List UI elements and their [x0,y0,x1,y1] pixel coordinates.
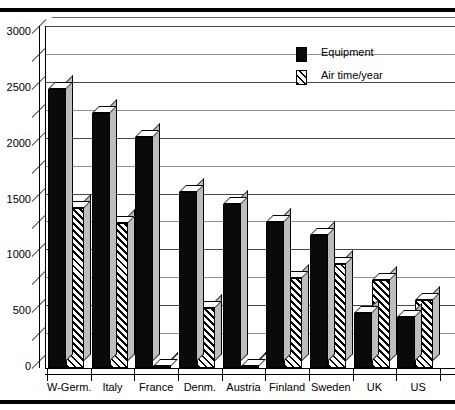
x-tick [265,368,266,381]
gridline-2750 [45,54,455,55]
chart-page: 050010001500200025003000 W-Germ.ItalyFra… [0,0,455,410]
x-tick [309,368,310,381]
bar-equipment [179,192,197,368]
bar-side-face [197,178,204,361]
bar-front-face [179,192,197,368]
bar-side-face [241,190,248,361]
bar-side-face [346,250,353,361]
bar-equipment [92,113,110,368]
bar-equipment [354,313,372,368]
air-time-swatch-icon [296,70,307,85]
bar-front-face [92,113,110,368]
legend-label-equipment: Equipment [321,46,374,58]
y-axis-tick-label: 500 [13,304,31,316]
x-tick [134,368,135,381]
y-axis-labels: 050010001500200025003000 [0,0,31,410]
bar-front-face [135,137,153,368]
bar-equipment [48,89,66,368]
bar-equipment [397,317,415,368]
x-tick [396,368,397,381]
bar-front-face [397,317,415,368]
bar-equipment [223,204,241,368]
x-tick [47,368,48,381]
x-axis-tick-label: Italy [91,381,135,393]
bar-side-face [302,264,309,361]
y-axis-tick-label: 3000 [7,25,31,37]
x-tick [91,368,92,381]
x-axis-tick-label: Austria [222,381,266,393]
bar-front-face [241,366,259,368]
x-axis-tick-label: US [396,381,440,393]
bar-front-face [310,235,328,368]
bar-front-face [48,89,66,368]
x-tick [178,368,179,381]
x-axis-tick-label: UK [353,381,397,393]
x-axis-tick-label: France [134,381,178,393]
bar-side-face [328,221,335,361]
x-axis-tick-label: Finland [265,381,309,393]
y-axis-tick-label: 2000 [7,137,31,149]
bar-front-face [354,313,372,368]
x-axis-tick-label: Denm. [178,381,222,393]
bar-air-time [153,366,171,368]
legend-label-air-time: Air time/year [321,69,383,81]
equipment-swatch-icon [296,47,307,62]
bar-equipment [310,235,328,368]
gridline-2500 [45,82,455,83]
bar-side-face [153,123,160,361]
bar-air-time [241,366,259,368]
x-tick [440,368,441,381]
x-axis-tick-label: Sweden [309,381,353,393]
y-axis-tick-label: 0 [25,360,31,372]
bar-side-face [66,75,73,361]
gridline-3000 [45,26,455,27]
bar-top-face [153,359,178,366]
y-axis-tick-label: 2500 [7,81,31,93]
bar-side-face [128,209,135,361]
x-tick [353,368,354,381]
bar-side-face [110,99,117,361]
x-axis-tick-label: W-Germ. [47,381,91,393]
x-axis [45,368,455,375]
y-axis-tick-label: 1500 [7,193,31,205]
bar-front-face [266,222,284,368]
bar-top-face [241,359,266,366]
bar-front-face [153,366,171,368]
plot-area [0,0,455,410]
bar-side-face [284,208,291,361]
y-axis-tick-label: 1000 [7,248,31,260]
bottom-rule [0,400,455,404]
bar-equipment [135,137,153,368]
x-tick [222,368,223,381]
bar-equipment [266,222,284,368]
bar-front-face [223,204,241,368]
bar-side-face [84,194,91,361]
bar-side-face [390,266,397,361]
